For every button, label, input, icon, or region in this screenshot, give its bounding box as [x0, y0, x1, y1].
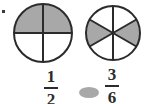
- right-fraction-denominator: 6: [108, 88, 117, 104]
- left-fraction-label: 1 2: [44, 68, 58, 104]
- left-fraction-numerator: 1: [47, 68, 56, 86]
- right-fraction-label: 3 6: [105, 66, 119, 104]
- left-fraction-denominator: 2: [47, 90, 56, 104]
- worksheet-figure: 1 2 3 6: [0, 0, 144, 104]
- right-fraction-numerator: 3: [108, 66, 117, 84]
- comparison-operator-placeholder[interactable]: [79, 87, 99, 98]
- left-fraction-bar: [44, 87, 58, 89]
- fraction-circle-sixths: [86, 6, 140, 60]
- right-fraction-bar: [105, 85, 119, 87]
- fraction-circles-diagram: [0, 0, 144, 104]
- fraction-circle-halves: [14, 4, 72, 62]
